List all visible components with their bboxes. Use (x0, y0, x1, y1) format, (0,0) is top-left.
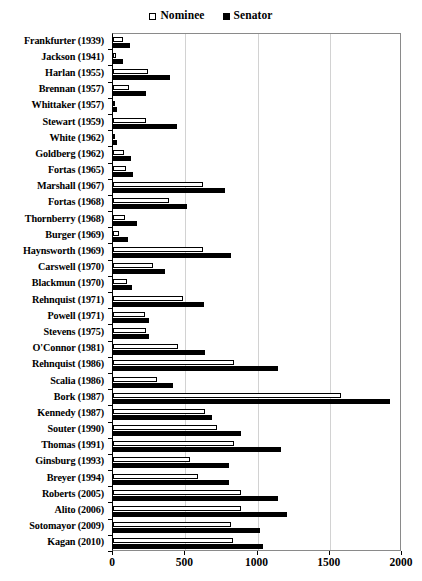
y-axis-tick-label: Stevens (1975) (44, 327, 104, 337)
bar-senator (113, 237, 128, 242)
bar-senator (113, 59, 123, 64)
bar-group (113, 423, 400, 439)
bar-nominee (113, 231, 119, 236)
bar-senator (113, 383, 173, 388)
y-axis-tick-label: Goldberg (1962) (35, 149, 104, 159)
bar-nominee (113, 393, 341, 398)
y-axis-tick-label: Marshall (1967) (37, 181, 104, 191)
bar-chart: Nominee Senator Frankfurter (1939)Jackso… (0, 0, 422, 581)
bar-group (113, 487, 400, 503)
y-axis-tick-label: Sotomayor (2009) (29, 521, 104, 531)
y-axis-tick-label: Alito (2006) (55, 505, 104, 515)
y-axis-tick-label: Kennedy (1987) (37, 408, 104, 418)
bar-nominee (113, 425, 217, 430)
bar-group (113, 99, 400, 115)
bar-nominee (113, 312, 145, 317)
y-axis-tick-label: Powell (1971) (47, 311, 104, 321)
bar-nominee (113, 215, 125, 220)
bar-senator (113, 43, 130, 48)
bar-senator (113, 285, 132, 290)
bar-nominee (113, 490, 241, 495)
bar-nominee (113, 101, 115, 106)
x-axis-tick-label: 2000 (390, 557, 413, 569)
y-axis-tick-label: Rehnquist (1971) (32, 295, 104, 305)
bar-group (113, 66, 400, 82)
bar-senator (113, 496, 278, 501)
bar-senator (113, 480, 229, 485)
x-axis-tick (257, 551, 258, 555)
bar-group (113, 309, 400, 325)
bar-nominee (113, 344, 178, 349)
bar-group (113, 212, 400, 228)
bar-nominee (113, 538, 233, 543)
bar-group (113, 164, 400, 180)
bar-group (113, 147, 400, 163)
bar-senator (113, 91, 146, 96)
bar-nominee (113, 69, 148, 74)
bar-group (113, 261, 400, 277)
y-axis-tick-label: Frankfurter (1939) (24, 36, 104, 46)
bar-nominee (113, 134, 115, 139)
bar-senator (113, 172, 133, 177)
bar-group (113, 439, 400, 455)
bar-nominee (113, 182, 203, 187)
bar-nominee (113, 247, 203, 252)
y-axis-tick-label: Ginsburg (1993) (35, 456, 104, 466)
bar-senator (113, 75, 170, 80)
y-axis-tick-label: Rehnquist (1986) (32, 359, 104, 369)
y-axis-tick-label: Kagan (2010) (47, 537, 104, 547)
bar-senator (113, 107, 117, 112)
bar-senator (113, 366, 278, 371)
x-axis-tick (401, 551, 402, 555)
bar-nominee (113, 441, 234, 446)
bar-senator (113, 399, 390, 404)
bar-group (113, 115, 400, 131)
bar-nominee (113, 53, 116, 58)
bar-senator (113, 140, 117, 145)
bar-group (113, 131, 400, 147)
y-axis-tick-label: Whittaker (1957) (32, 100, 104, 110)
legend-label-senator: Senator (234, 10, 273, 22)
bar-nominee (113, 506, 241, 511)
bar-nominee (113, 360, 234, 365)
legend-entry-senator: Senator (223, 10, 273, 22)
bar-senator (113, 447, 281, 452)
chart-legend: Nominee Senator (0, 6, 422, 26)
bar-senator (113, 302, 204, 307)
bar-group (113, 520, 400, 536)
bar-group (113, 374, 400, 390)
x-axis-tick-label: 500 (176, 557, 193, 569)
bar-group (113, 390, 400, 406)
bar-group (113, 180, 400, 196)
legend-entry-nominee: Nominee (149, 10, 204, 22)
filled-square-icon (223, 13, 230, 20)
bar-group (113, 325, 400, 341)
bar-rows (113, 34, 400, 550)
bar-nominee (113, 377, 157, 382)
bar-nominee (113, 522, 231, 527)
bar-group (113, 471, 400, 487)
bar-senator (113, 334, 149, 339)
bar-senator (113, 188, 225, 193)
bar-group (113, 83, 400, 99)
y-axis-tick-label: Haynsworth (1969) (23, 246, 104, 256)
y-axis-tick-label: O'Connor (1981) (33, 343, 104, 353)
bar-senator (113, 156, 131, 161)
y-axis-tick-label: Thomas (1991) (41, 440, 104, 450)
bar-senator (113, 269, 165, 274)
bar-group (113, 50, 400, 66)
bar-nominee (113, 166, 126, 171)
y-axis-tick-label: Fortas (1968) (48, 197, 104, 207)
bar-nominee (113, 263, 153, 268)
bar-senator (113, 512, 287, 517)
bar-group (113, 536, 400, 551)
y-axis-tick-label: Burger (1969) (45, 230, 104, 240)
y-axis-tick-label: Blackmun (1970) (32, 278, 104, 288)
bar-nominee (113, 474, 198, 479)
y-axis-tick-label: Souter (1990) (48, 424, 104, 434)
bar-senator (113, 431, 241, 436)
bar-senator (113, 463, 229, 468)
bar-senator (113, 124, 177, 129)
bar-group (113, 244, 400, 260)
bar-group (113, 503, 400, 519)
